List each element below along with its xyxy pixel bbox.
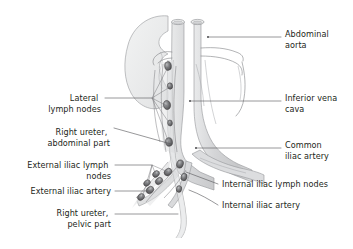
leader-dot-common-iliac-artery: [195, 147, 197, 149]
label-line: Internal iliac lymph nodes: [222, 179, 328, 189]
label-line: abdominal part: [47, 138, 110, 148]
leader-internal-iliac-artery: [189, 190, 218, 205]
label-line: Internal iliac artery: [222, 200, 300, 210]
label-line: pelvic part: [67, 219, 111, 229]
label-line: cava: [285, 104, 304, 114]
label-line: lymph nodes: [48, 104, 101, 114]
anatomical-figure: Lateral lymph nodes Right ureter, abdomi…: [0, 0, 353, 249]
label-right-ureter-abdominal-part: Right ureter, abdominal part: [47, 127, 110, 148]
aorta-shade-line: [205, 60, 216, 124]
lumbar-branch-right-upper: [201, 48, 243, 61]
label-line: Lateral: [70, 93, 99, 103]
label-line: Abdominal: [285, 29, 329, 39]
label-line: aorta: [285, 40, 307, 50]
label-lateral-lymph-nodes: Lateral lymph nodes: [48, 93, 101, 114]
label-line: External iliac artery: [31, 186, 112, 196]
lumbar-branch-descend-2: [238, 66, 241, 100]
label-internal-iliac-artery: Internal iliac artery: [222, 200, 300, 210]
label-line: External iliac lymph: [27, 160, 108, 170]
label-line: Inferior vena: [285, 93, 337, 103]
label-inferior-vena-cava: Inferior vena cava: [285, 93, 340, 114]
lumbar-branch-right-lower: [201, 56, 242, 75]
label-line: Right ureter,: [56, 127, 108, 137]
leader-dot-abdominal-aorta: [207, 36, 209, 38]
aorta-lumen-inner: [193, 21, 202, 24]
label-line: iliac artery: [285, 151, 329, 161]
label-group-left: Lateral lymph nodes Right ureter, abdomi…: [27, 93, 111, 229]
ivc-lumen-inner: [173, 21, 182, 24]
label-line: nodes: [86, 171, 111, 181]
label-internal-iliac-lymph-nodes: Internal iliac lymph nodes: [222, 179, 328, 189]
anatomy-illustration: Lateral lymph nodes Right ureter, abdomi…: [0, 0, 353, 249]
lymph-node: [167, 120, 172, 126]
label-line: Common: [285, 140, 322, 150]
label-line: Right ureter,: [57, 208, 109, 218]
label-external-iliac-artery: External iliac artery: [31, 186, 112, 196]
label-group-right: Abdominal aorta Inferior vena cava Commo…: [222, 29, 340, 210]
leader-dot-inferior-vena-cava: [189, 100, 191, 102]
label-external-iliac-lymph-nodes: External iliac lymph nodes: [27, 160, 111, 181]
lumbar-branch-descend: [236, 62, 245, 116]
label-common-iliac-artery: Common iliac artery: [285, 140, 329, 161]
label-right-ureter-pelvic-part: Right ureter, pelvic part: [57, 208, 111, 229]
label-abdominal-aorta: Abdominal aorta: [285, 29, 331, 50]
